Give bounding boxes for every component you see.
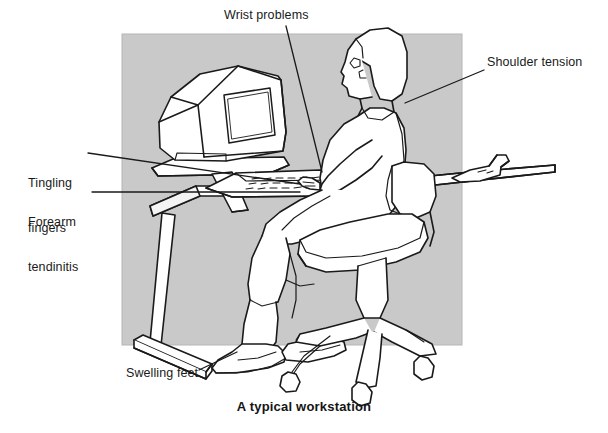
label-wrist-problems: Wrist problems (224, 8, 309, 23)
label-swelling-feet: Swelling feet (126, 366, 198, 381)
label-shoulder-tension: Shoulder tension (487, 55, 582, 70)
label-forearm-tendinitis-line2: tendinitis (28, 260, 78, 275)
figure-caption: A typical workstation (0, 399, 608, 414)
label-forearm-tendinitis: Forearm tendinitis (28, 185, 78, 305)
label-forearm-tendinitis-line1: Forearm (28, 215, 78, 230)
ergonomics-figure: Wrist problems Shoulder tension Tingling… (0, 0, 608, 433)
